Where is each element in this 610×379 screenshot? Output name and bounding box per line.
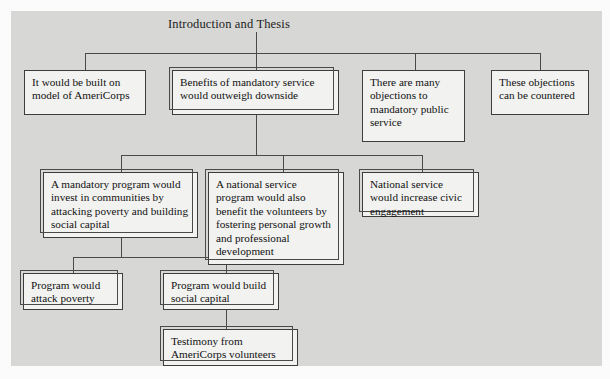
connector-root-stem [256, 32, 257, 53]
node-testimony[interactable]: Testimony from AmeriCorps volunteers [163, 329, 298, 366]
node-civic[interactable]: National service would increase civic en… [362, 172, 479, 217]
diagram-title: Introduction and Thesis [168, 17, 290, 32]
connector-invest-stem [121, 238, 122, 257]
connector-invest-bus [73, 257, 226, 258]
node-attack[interactable]: Program would attack poverty [23, 273, 123, 310]
connector-drop-americorps [85, 53, 86, 70]
node-build[interactable]: Program would build social capital [163, 273, 279, 310]
flowchart-canvas: Introduction and Thesis It would be buil… [0, 0, 610, 379]
connector-build-testimony [226, 310, 227, 329]
connector-root-bus [85, 53, 540, 54]
connector-drop-countered [540, 53, 541, 70]
connector-drop-volunteers [283, 155, 284, 172]
connector-benefits-bus [121, 155, 422, 156]
node-americorps[interactable]: It would be built on model of AmeriCorps [24, 70, 146, 115]
connector-drop-civic [422, 155, 423, 172]
node-countered[interactable]: These objections can be countered [491, 70, 589, 115]
connector-drop-invest [121, 155, 122, 172]
node-volunteers[interactable]: A national service program would also be… [208, 172, 344, 265]
connector-drop-benefits [256, 53, 257, 70]
connector-drop-attack [73, 257, 74, 273]
node-invest[interactable]: A mandatory program would invest in comm… [43, 172, 198, 238]
connector-benefits-stem [256, 115, 257, 155]
connector-drop-objections [415, 53, 416, 70]
node-benefits[interactable]: Benefits of mandatory service would outw… [172, 70, 339, 115]
node-objections[interactable]: There are many objections to mandatory p… [362, 70, 465, 142]
diagram-field: Introduction and Thesis It would be buil… [11, 11, 602, 366]
